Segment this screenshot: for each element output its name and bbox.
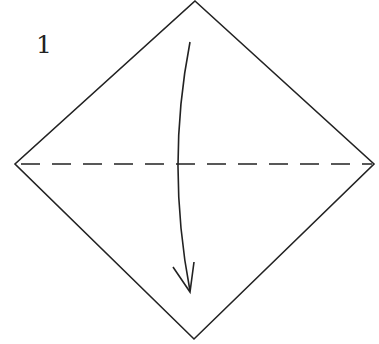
fold-arrow-head-icon [173, 262, 194, 292]
origami-diagram: 1 [0, 0, 379, 344]
fold-arrow-shaft [178, 42, 190, 291]
step-number: 1 [36, 30, 52, 60]
paper-square-outline [15, 1, 374, 339]
